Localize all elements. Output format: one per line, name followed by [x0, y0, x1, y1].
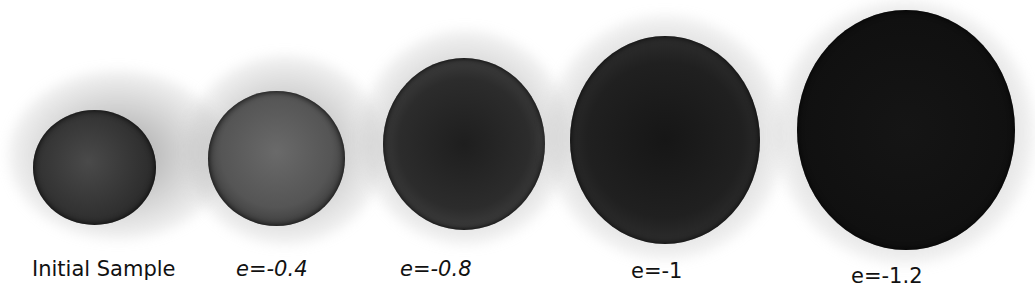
label-e-1-2: e=-1.2	[851, 264, 923, 288]
sample-disc-e-0-4	[208, 91, 345, 226]
label-e-1: e=-1	[631, 259, 682, 283]
sample-disc-e-1-2	[797, 10, 1015, 250]
label-e-0-8: e=-0.8	[400, 257, 472, 281]
label-e-0-4: e=-0.4	[236, 257, 308, 281]
sample-disc-e-0-8	[383, 58, 545, 230]
sample-disc-e-1	[570, 36, 760, 244]
sample-disc-initial	[33, 110, 156, 225]
label-initial-sample: Initial Sample	[32, 257, 176, 281]
